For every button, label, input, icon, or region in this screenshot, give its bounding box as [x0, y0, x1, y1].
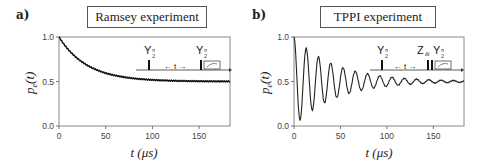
panel-a-ylabel: pe(t): [22, 72, 39, 95]
pulse-y-2: Y: [433, 44, 441, 56]
panel-a-pulse-sequence-inset: Y π2 Y π2 ← t →: [136, 44, 232, 72]
svg-text:50: 50: [101, 131, 111, 141]
svg-text:0: 0: [292, 131, 297, 141]
pulse-z-dt: Z: [417, 44, 424, 56]
svg-text:δt: δt: [425, 51, 430, 57]
svg-text:2: 2: [441, 53, 444, 59]
pulse-y-1: Y: [144, 44, 152, 56]
svg-text:150: 150: [426, 131, 440, 141]
svg-text:0.0: 0.0: [42, 121, 54, 131]
svg-text:1.0: 1.0: [42, 32, 54, 42]
panel-b-pulse-sequence-inset: Y π2 Z δt Y π2 ← t →: [370, 44, 464, 72]
svg-text:100: 100: [380, 131, 394, 141]
panel-b-ylabel: pe(t): [257, 72, 274, 95]
svg-text:2: 2: [385, 53, 388, 59]
pulse-y-1: Y: [377, 44, 385, 56]
delay-t-label: ← t →: [164, 62, 187, 71]
panel-a-xlabel: t (μs): [130, 145, 157, 160]
svg-text:0.5: 0.5: [277, 77, 289, 87]
svg-text:100: 100: [145, 131, 159, 141]
figure-canvas: 0501001500.00.51.00501001500.00.51.0 pe(…: [0, 0, 483, 166]
svg-text:0.5: 0.5: [42, 77, 54, 87]
pulse-y-2: Y: [196, 44, 204, 56]
svg-text:2: 2: [204, 53, 207, 59]
delay-t-label: ← t →: [394, 62, 417, 71]
svg-text:0: 0: [57, 131, 62, 141]
svg-text:50: 50: [336, 131, 346, 141]
svg-text:0.0: 0.0: [277, 121, 289, 131]
panel-b-xlabel: t (μs): [365, 145, 392, 160]
svg-text:2: 2: [152, 53, 155, 59]
svg-text:150: 150: [192, 131, 206, 141]
svg-text:1.0: 1.0: [277, 32, 289, 42]
